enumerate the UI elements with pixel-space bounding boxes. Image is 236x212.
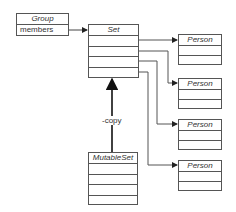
group-field-members: members [17,25,68,36]
mutableset-class-box[interactable]: MutableSet [88,152,138,205]
person-class-box-2[interactable]: Person [178,78,222,109]
set-row [89,36,138,47]
person-row [179,182,221,191]
set-class-title: Set [89,25,138,36]
mutableset-class-title: MutableSet [89,153,137,164]
person-class-title: Person [179,120,221,131]
set-class-box[interactable]: Set [88,24,139,78]
group-class-title: Group [17,14,68,25]
person-row [179,141,221,150]
person-class-title: Person [179,79,221,90]
mutableset-row [89,196,137,205]
mutableset-row [89,164,137,175]
person-class-box-3[interactable]: Person [178,119,222,150]
person-row [179,100,221,109]
group-class-box[interactable]: Group members [16,13,69,36]
set-to-person3-arrow [138,61,177,124]
mutableset-row [89,175,137,186]
person-row [179,172,221,182]
copy-relation-label: -copy [102,116,122,125]
person-class-box-4[interactable]: Person [178,160,222,191]
mutableset-row [89,185,137,196]
set-row [89,68,138,78]
person-row [179,90,221,100]
person-row [179,131,221,141]
person-class-title: Person [179,161,221,172]
person-class-title: Person [179,35,221,46]
set-row [89,47,138,58]
set-row [89,57,138,68]
person-row [179,46,221,56]
person-row [179,56,221,65]
person-class-box-1[interactable]: Person [178,34,222,65]
